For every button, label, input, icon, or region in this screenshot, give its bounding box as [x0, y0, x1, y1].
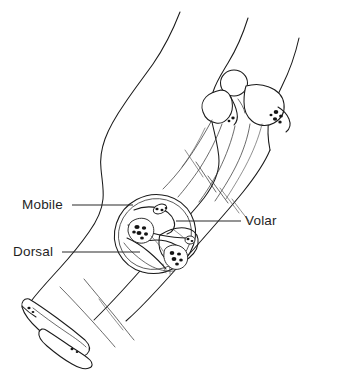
illustration-canvas [0, 0, 344, 373]
proximal-joint-bones [163, 70, 290, 202]
label-volar: Volar [245, 214, 277, 228]
tendon-strand-5 [226, 124, 262, 199]
anatomical-figure: Mobile Dorsal Volar [0, 0, 344, 373]
neurovascular-bundle [185, 236, 195, 244]
label-mobile: Mobile [22, 198, 63, 212]
bone-proximal-right [244, 85, 284, 126]
tendon-strand-6 [182, 128, 205, 167]
limb-outline-group [32, 12, 299, 321]
tendon-strand-1 [163, 120, 212, 189]
distal-soft-tissue-2 [84, 279, 134, 340]
fascia-line-5 [185, 150, 203, 177]
fascia-line-2 [208, 176, 228, 203]
fascia-line-1 [196, 162, 216, 192]
bone-section-radius [128, 218, 154, 243]
label-dorsal: Dorsal [13, 245, 53, 259]
bone-proximal-left [202, 90, 232, 123]
cross-section-group [100, 180, 209, 287]
distal-soft-tissue-3 [99, 299, 123, 330]
muscle-fascia-lines [185, 150, 249, 221]
